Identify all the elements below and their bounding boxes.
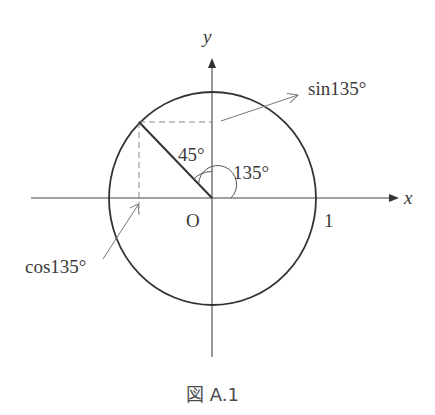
unit-circle-diagram: y x O 1 45° 135° sin135° cos135° 図 A.1 (0, 0, 435, 415)
sin-label: sin135° (308, 78, 366, 99)
angle-label-45: 45° (178, 144, 205, 165)
cos-annotation-arrow (103, 205, 138, 259)
origin-label: O (186, 210, 200, 231)
cos-arrowhead-icon (130, 204, 139, 213)
sin-annotation-arrow (221, 95, 298, 121)
x-axis-label: x (403, 187, 413, 208)
cos-label: cos135° (25, 256, 86, 277)
unit-tick-label: 1 (324, 210, 334, 231)
angle-arc-135 (199, 166, 237, 198)
y-axis-label: y (201, 26, 212, 47)
angle-label-135: 135° (233, 162, 269, 183)
figure-caption: 図 A.1 (186, 384, 239, 405)
